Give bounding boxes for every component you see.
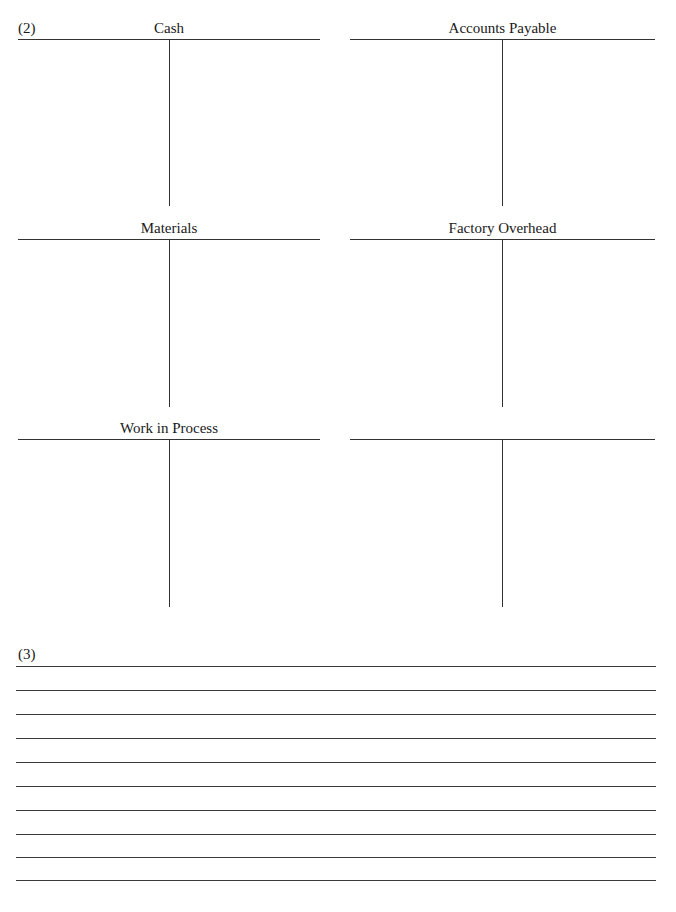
t-account-title: Factory Overhead	[350, 218, 655, 238]
answer-line[interactable]	[16, 786, 656, 787]
answer-line[interactable]	[16, 857, 656, 858]
t-account-center-line	[169, 40, 170, 206]
answer-line[interactable]	[16, 810, 656, 811]
answer-line[interactable]	[16, 714, 656, 715]
t-account-title	[350, 418, 655, 438]
t-account-factory-overhead: Factory Overhead	[350, 218, 655, 408]
answer-line[interactable]	[16, 762, 656, 763]
t-account-materials: Materials	[18, 218, 320, 408]
t-account-center-line	[502, 240, 503, 407]
t-account-title: Cash	[18, 18, 320, 38]
t-account-cash: Cash	[18, 18, 320, 208]
t-account-title: Work in Process	[18, 418, 320, 438]
answer-line[interactable]	[16, 738, 656, 739]
part-3-label: (3)	[18, 644, 36, 664]
t-account-work-in-process: Work in Process	[18, 418, 320, 608]
t-account-accounts-payable: Accounts Payable	[350, 18, 655, 208]
t-account-center-line	[169, 440, 170, 607]
answer-line[interactable]	[16, 880, 656, 881]
t-account-title: Accounts Payable	[350, 18, 655, 38]
t-account-center-line	[502, 40, 503, 206]
answer-line[interactable]	[16, 690, 656, 691]
answer-line[interactable]	[16, 834, 656, 835]
answer-line[interactable]	[16, 666, 656, 667]
t-account-blank	[350, 418, 655, 608]
t-account-title: Materials	[18, 218, 320, 238]
t-account-center-line	[502, 440, 503, 607]
t-account-center-line	[169, 240, 170, 407]
